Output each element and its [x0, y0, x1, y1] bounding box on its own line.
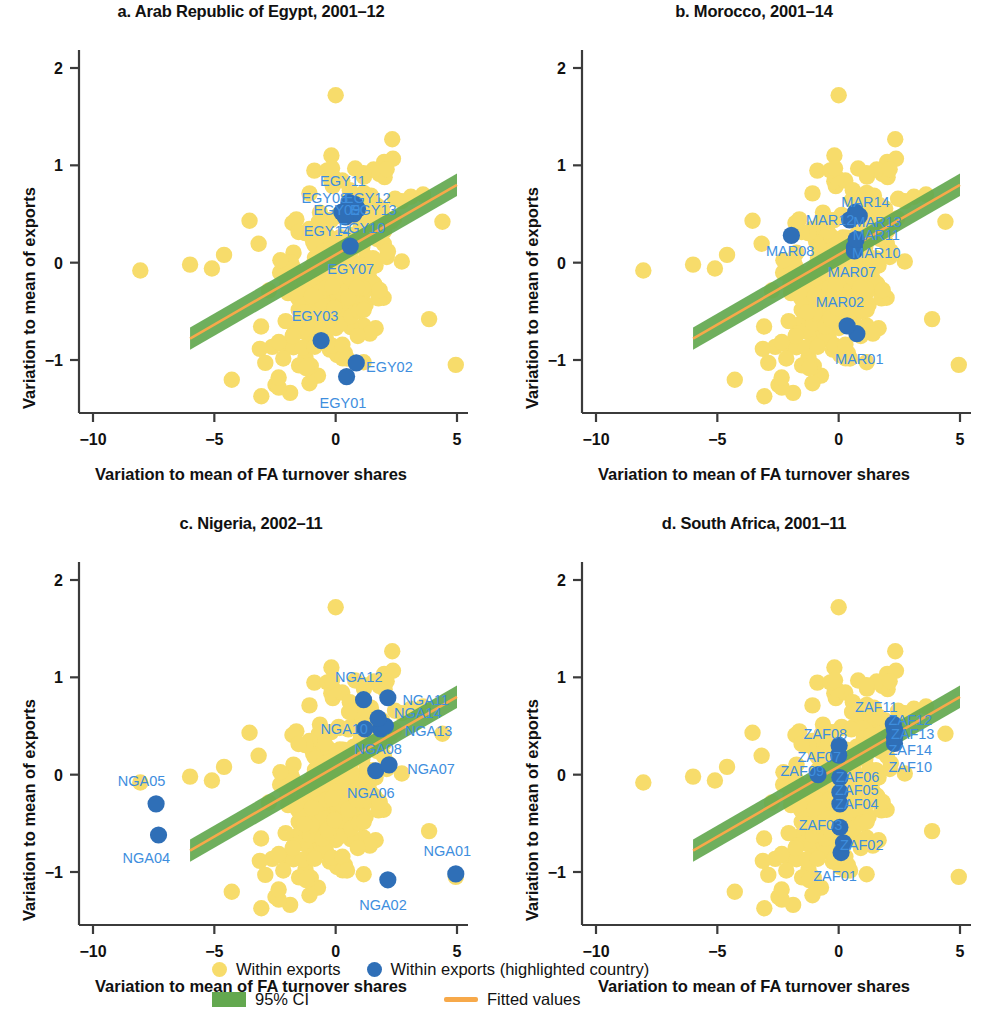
data-point[interactable]	[147, 795, 164, 812]
x-tick-label: 0	[331, 431, 340, 448]
point-label: ZAF04	[835, 796, 879, 812]
point-label: ZAF08	[804, 726, 848, 742]
data-point[interactable]	[355, 691, 372, 708]
y-tick-label: 0	[54, 767, 63, 784]
plot-area-egypt: EGY01EGY02EGY03EGY07EGY08EGY09EGY10EGY11…	[0, 0, 502, 512]
y-axis-title: Variation to mean of exports	[20, 187, 39, 409]
data-point[interactable]	[150, 826, 167, 843]
point-label: MAR08	[766, 243, 814, 259]
y-tick-label: 0	[557, 767, 566, 784]
legend-item-within-exports: Within exports	[212, 960, 341, 979]
panel-morocco: b. Morocco, 2001–14 MAR01MAR02MAR07MAR08…	[503, 0, 1005, 512]
legend-label: Within exports (highlighted country)	[391, 960, 650, 979]
point-label: NGA07	[407, 761, 455, 777]
data-point[interactable]	[342, 238, 359, 255]
point-label: ZAF14	[888, 742, 932, 758]
x-tick-label: 0	[834, 431, 843, 448]
point-label: ZAF02	[840, 837, 884, 853]
point-label: EGY13	[350, 202, 397, 218]
blue-dot-icon	[367, 962, 382, 977]
y-axis-title: Variation to mean of exports	[523, 699, 542, 921]
x-axis-title: Variation to mean of FA turnover shares	[0, 465, 502, 484]
point-label: NGA05	[118, 773, 166, 789]
x-tick-label: −5	[708, 431, 726, 448]
y-axis-title: Variation to mean of exports	[20, 699, 39, 921]
legend-item-ci: 95% CI	[212, 990, 418, 1009]
y-tick-label: 2	[557, 572, 566, 589]
scatter-within-exports	[132, 87, 464, 404]
x-tick-label: −5	[205, 431, 223, 448]
point-label: ZAF05	[835, 782, 879, 798]
legend-row-lines: 95% CI Fitted values	[212, 990, 607, 1009]
legend-item-fitted-values: Fitted values	[444, 990, 581, 1009]
point-label: NGA06	[347, 785, 395, 801]
x-tick-label: 5	[956, 431, 965, 448]
x-tick-label: −10	[79, 431, 106, 448]
panel-egypt: a. Arab Republic of Egypt, 2001–12 EGY01…	[0, 0, 502, 512]
point-label: MAR11	[853, 227, 900, 243]
y-tick-label: −1	[548, 864, 566, 881]
point-label: NGA08	[354, 741, 402, 757]
y-tick-label: 1	[557, 669, 566, 686]
point-label: MAR13	[853, 214, 901, 230]
point-label: EGY07	[327, 261, 374, 277]
y-tick-label: 2	[54, 572, 63, 589]
plot-area-south-africa: ZAF01ZAF02ZAF03ZAF04ZAF05ZAF06ZAF07ZAF08…	[503, 512, 1005, 1024]
point-label: NGA04	[123, 850, 171, 866]
plot-area-nigeria: NGA01NGA02NGA04NGA05NGA06NGA07NGA08NGA10…	[0, 512, 502, 1024]
green-band-icon	[212, 992, 246, 1007]
x-tick-label: −10	[582, 431, 609, 448]
point-label: ZAF03	[799, 817, 843, 833]
data-point[interactable]	[447, 865, 464, 882]
point-label: EGY01	[320, 395, 367, 411]
data-point[interactable]	[379, 689, 396, 706]
point-label: MAR10	[852, 245, 900, 261]
panel-nigeria: c. Nigeria, 2002–11 NGA01NGA02NGA04NGA05…	[0, 512, 502, 1024]
point-label: EGY02	[366, 359, 413, 375]
point-label: MAR01	[835, 351, 883, 367]
legend-label: 95% CI	[255, 990, 309, 1009]
legend-label: Within exports	[236, 960, 341, 979]
legend-item-within-exports-highlighted: Within exports (highlighted country)	[367, 960, 650, 979]
scatter-within-exports	[132, 599, 464, 916]
point-label: ZAF13	[891, 726, 935, 742]
point-label: NGA14	[394, 705, 442, 721]
y-tick-label: 2	[54, 60, 63, 77]
y-tick-label: 1	[54, 157, 63, 174]
y-tick-label: 2	[557, 60, 566, 77]
point-label: MAR14	[841, 194, 889, 210]
data-point[interactable]	[783, 227, 800, 244]
y-tick-label: −1	[548, 352, 566, 369]
y-tick-label: 0	[54, 255, 63, 272]
data-point[interactable]	[313, 332, 330, 349]
legend-label: Fitted values	[487, 990, 581, 1009]
point-label: NGA01	[424, 843, 472, 859]
y-tick-label: −1	[45, 352, 63, 369]
y-tick-label: 0	[557, 255, 566, 272]
x-tick-label: 5	[453, 431, 462, 448]
point-label: NGA10	[320, 721, 368, 737]
point-label: ZAF01	[813, 868, 857, 884]
y-tick-label: 1	[557, 157, 566, 174]
figure-legend: Within exports Within exports (highlight…	[0, 958, 1005, 1026]
point-label: ZAF09	[781, 763, 825, 779]
yellow-dot-icon	[212, 962, 227, 977]
data-point[interactable]	[380, 756, 397, 773]
panel-south-africa: d. South Africa, 2001–11 ZAF01ZAF02ZAF03…	[503, 512, 1005, 1024]
y-tick-label: 1	[54, 669, 63, 686]
point-label: ZAF10	[888, 759, 932, 775]
point-label: MAR02	[816, 294, 864, 310]
data-point[interactable]	[370, 710, 387, 727]
point-label: MAR07	[828, 264, 876, 280]
data-point[interactable]	[379, 871, 396, 888]
plot-area-morocco: MAR01MAR02MAR07MAR08MAR10MAR11MAR12MAR13…	[503, 0, 1005, 512]
point-label: ZAF06	[836, 769, 880, 785]
point-label: EGY03	[292, 308, 339, 324]
y-axis-title: Variation to mean of exports	[523, 187, 542, 409]
y-tick-label: −1	[45, 864, 63, 881]
data-point[interactable]	[348, 354, 365, 371]
point-label: NGA02	[359, 897, 407, 913]
point-label: NGA12	[335, 669, 383, 685]
point-label: EGY11	[320, 173, 366, 189]
data-point[interactable]	[839, 317, 856, 334]
